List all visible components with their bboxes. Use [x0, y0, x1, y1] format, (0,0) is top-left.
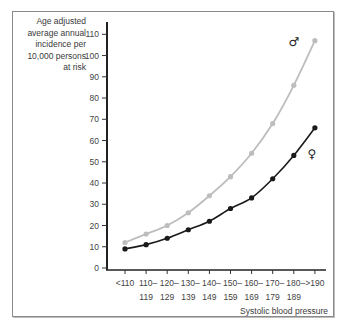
x-tick-label: 160–: [244, 278, 263, 288]
y-tick-label: 0: [94, 263, 99, 273]
y-tick-label: 90: [90, 72, 100, 82]
y-tick-label: 20: [90, 221, 100, 231]
x-tick-label: 119: [139, 292, 153, 302]
data-point: [144, 242, 149, 247]
male-symbol-icon: ♂: [289, 35, 300, 49]
y-tick-label: 60: [90, 136, 100, 146]
x-tick-label: 110–: [139, 278, 158, 288]
data-point: [207, 219, 212, 224]
x-tick-label: 139: [181, 292, 195, 302]
x-tick-label: 129: [160, 292, 174, 302]
x-tick-label: <110: [116, 278, 135, 288]
data-point: [165, 223, 170, 228]
data-point: [291, 83, 296, 88]
line-chart: 0102030405060708090100110<110110–119120–…: [0, 0, 345, 331]
x-tick-label: 149: [202, 292, 216, 302]
data-point: [291, 153, 296, 158]
x-tick-label: 159: [223, 292, 237, 302]
data-point: [186, 210, 191, 215]
y-tick-label: 30: [90, 199, 100, 209]
y-tick-label: 100: [85, 51, 99, 61]
x-tick-label: 179: [266, 292, 280, 302]
x-tick-label: >190: [305, 278, 324, 288]
y-tick-label: 40: [90, 178, 100, 188]
data-point: [207, 193, 212, 198]
data-point: [249, 151, 254, 156]
female-symbol-icon: ♀: [308, 147, 317, 161]
x-tick-label: 170–: [265, 278, 284, 288]
data-point: [165, 236, 170, 241]
data-point: [249, 195, 254, 200]
x-tick-label: 150–: [223, 278, 242, 288]
data-point: [270, 121, 275, 126]
x-axis-label: Systolic blood pressure: [180, 306, 328, 316]
x-tick-label: 180–: [286, 278, 305, 288]
y-tick-label: 10: [90, 242, 100, 252]
x-tick-label: 130–: [181, 278, 200, 288]
data-point: [122, 240, 127, 245]
data-point: [122, 246, 127, 251]
data-point: [186, 227, 191, 232]
y-tick-label: 70: [90, 114, 100, 124]
data-point: [312, 125, 317, 130]
x-tick-label: 120–: [160, 278, 179, 288]
y-tick-label: 110: [85, 29, 99, 39]
y-tick-label: 80: [90, 93, 100, 103]
data-point: [228, 206, 233, 211]
data-point: [144, 231, 149, 236]
x-tick-label: 169: [245, 292, 259, 302]
x-tick-label: 189: [287, 292, 301, 302]
data-point: [312, 38, 317, 43]
y-tick-label: 50: [90, 157, 100, 167]
data-point: [228, 174, 233, 179]
x-tick-label: 140–: [202, 278, 221, 288]
series-line-men: [125, 41, 315, 243]
data-point: [270, 176, 275, 181]
